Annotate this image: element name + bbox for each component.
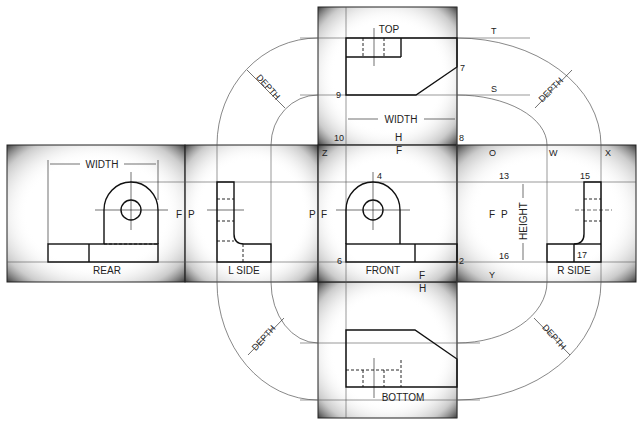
svg-text:9: 9 [336,90,341,100]
svg-text:Y: Y [489,270,495,280]
view-label-right-side: R SIDE [557,265,591,276]
svg-text:O: O [489,148,496,158]
svg-text:H: H [395,132,402,143]
svg-text:16: 16 [499,251,509,261]
view-label-front: FRONT [366,265,400,276]
svg-text:F: F [176,209,182,220]
svg-text:T: T [491,26,497,36]
depth-dimension-bottom-left: DEPTH [248,318,284,355]
svg-text:WIDTH: WIDTH [385,114,418,125]
svg-text:8: 8 [459,133,464,143]
svg-text:DEPTH: DEPTH [537,76,566,105]
svg-text:F: F [489,209,495,220]
svg-text:10: 10 [334,133,344,143]
svg-text:DEPTH: DEPTH [254,72,282,101]
svg-text:S: S [491,84,497,94]
svg-text:DEPTH: DEPTH [540,322,568,351]
svg-text:W: W [549,148,558,158]
svg-text:4: 4 [377,171,382,181]
depth-dimension-top-right: DEPTH [535,70,572,108]
svg-text:F: F [419,270,425,281]
svg-text:F: F [396,145,402,156]
svg-text:P: P [501,209,508,220]
svg-text:13: 13 [499,171,509,181]
depth-dimension-top-left: DEPTH [247,70,285,108]
svg-text:17: 17 [577,250,587,260]
svg-text:2: 2 [459,256,464,266]
svg-text:DEPTH: DEPTH [250,323,278,352]
svg-text:F: F [321,209,327,220]
svg-text:P: P [188,209,195,220]
view-label-bottom: BOTTOM [382,392,425,403]
depth-dimension-bottom-right: DEPTH [534,318,570,355]
view-label-top: TOP [379,24,400,35]
svg-text:6: 6 [337,256,342,266]
svg-text:H: H [419,283,426,294]
svg-text:15: 15 [580,171,590,181]
svg-text:7: 7 [460,63,465,73]
view-label-rear: REAR [93,265,121,276]
glass-box-diagram: DEPTH DEPTH DEPTH DEPTH TOP WIDTH [0,0,638,435]
svg-text:P: P [309,209,316,220]
view-label-left-side: L SIDE [228,265,260,276]
svg-text:HEIGHT: HEIGHT [518,202,529,240]
svg-text:Z: Z [322,148,328,158]
svg-text:WIDTH: WIDTH [86,159,119,170]
svg-text:X: X [605,148,611,158]
